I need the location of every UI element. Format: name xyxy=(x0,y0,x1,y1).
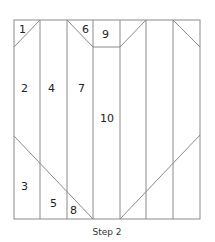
piece-label-8: 8 xyxy=(70,204,77,217)
piece-label-7: 7 xyxy=(78,82,85,95)
corner-diagonal xyxy=(14,20,40,47)
bottom-right-diagonal xyxy=(120,135,200,219)
piece-label-2: 2 xyxy=(21,82,28,95)
piece-label-1: 1 xyxy=(19,23,26,36)
piece-label-3: 3 xyxy=(21,180,28,193)
heart-block-diagram: 1 2 3 4 5 6 7 8 9 10 Step 2 xyxy=(0,0,215,242)
piece-label-4: 4 xyxy=(48,82,55,95)
piece-label-10: 10 xyxy=(100,112,114,125)
piece-label-9: 9 xyxy=(102,28,109,41)
corner-diagonal xyxy=(120,20,146,47)
corner-diagonal xyxy=(173,20,200,47)
piece-label-6: 6 xyxy=(82,23,89,36)
piece-label-5: 5 xyxy=(50,197,57,210)
corner-diagonal xyxy=(67,20,93,47)
step-caption: Step 2 xyxy=(92,227,121,237)
